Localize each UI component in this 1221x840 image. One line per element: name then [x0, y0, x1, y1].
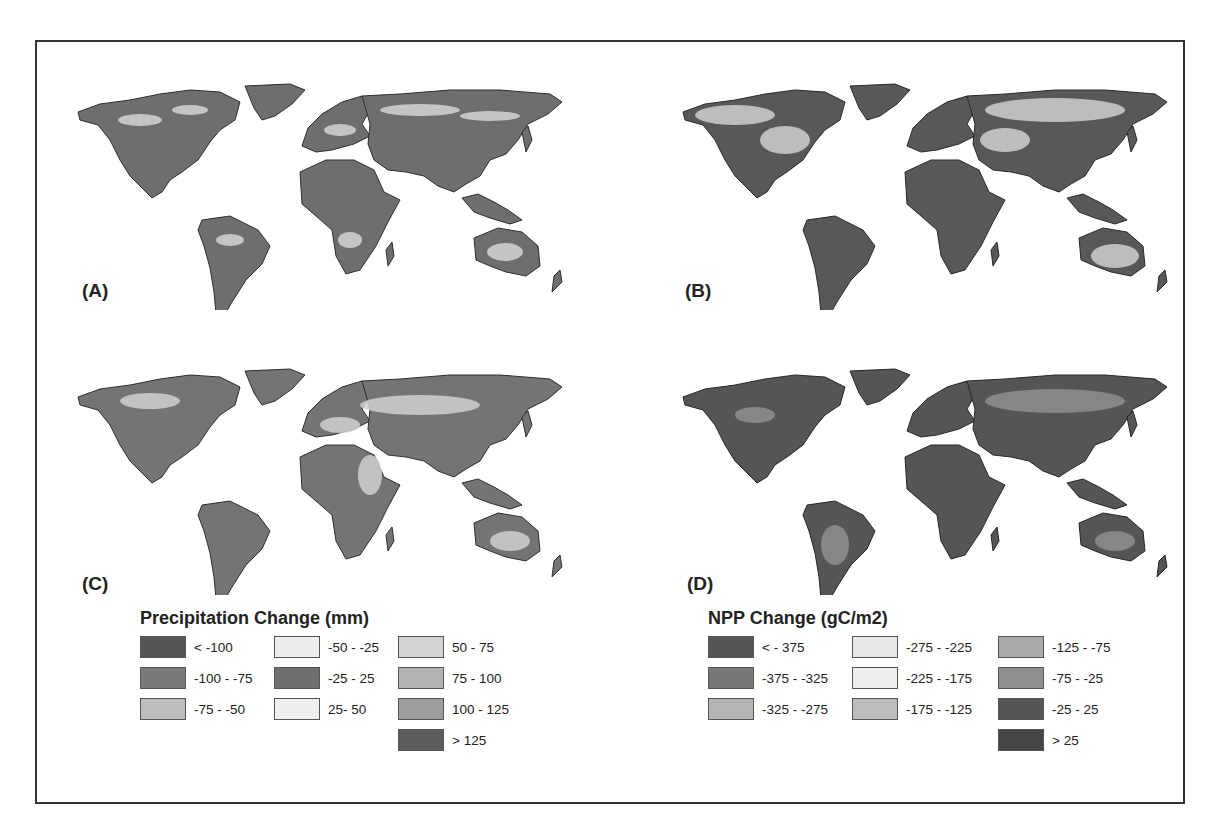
legend-label: -75 - -25 — [1052, 671, 1103, 686]
legend-label: -325 - -275 — [762, 702, 828, 717]
legend-label: 100 - 125 — [452, 702, 509, 717]
world-map-precipitation-c — [70, 365, 570, 595]
legend-precipitation: Precipitation Change (mm) < -100 -100 - … — [140, 608, 560, 765]
legend-item: -375 - -325 — [708, 666, 828, 690]
legend-label: -25 - 25 — [1052, 702, 1099, 717]
legend-swatch — [998, 729, 1044, 751]
legend-label: 25- 50 — [328, 702, 366, 717]
legend-swatch — [140, 636, 186, 658]
legend-item: -25 - 25 — [274, 666, 375, 690]
legend-swatch — [852, 636, 898, 658]
legend-swatch — [998, 698, 1044, 720]
legend-swatch — [708, 698, 754, 720]
legend-label: -175 - -125 — [906, 702, 972, 717]
legend-label: -75 - -50 — [194, 702, 245, 717]
legend-swatch — [140, 698, 186, 720]
legend-item: -25 - 25 — [998, 697, 1099, 721]
legend-item: > 125 — [398, 728, 486, 752]
map-panel-a: (A) — [70, 80, 570, 310]
legend-swatch — [274, 636, 320, 658]
legend-item: -275 - -225 — [852, 635, 972, 659]
legend-label: < -100 — [194, 640, 233, 655]
legend-label: 75 - 100 — [452, 671, 502, 686]
legend-item: 75 - 100 — [398, 666, 502, 690]
legend-item: -175 - -125 — [852, 697, 972, 721]
legend-label: -275 - -225 — [906, 640, 972, 655]
legend-swatch — [398, 698, 444, 720]
legend-item: 25- 50 — [274, 697, 366, 721]
legend-title-npp: NPP Change (gC/m2) — [708, 608, 1158, 629]
legend-swatch — [708, 667, 754, 689]
world-map-npp-b — [675, 80, 1175, 310]
legend-item: 50 - 75 — [398, 635, 494, 659]
world-map-npp-d — [675, 365, 1175, 595]
panel-label-a: (A) — [82, 280, 108, 302]
legend-item: 100 - 125 — [398, 697, 509, 721]
legend-label: -225 - -175 — [906, 671, 972, 686]
legend-swatch — [708, 636, 754, 658]
legend-item: -75 - -50 — [140, 697, 245, 721]
legend-item: -50 - -25 — [274, 635, 379, 659]
legend-item: -225 - -175 — [852, 666, 972, 690]
legend-swatch — [398, 729, 444, 751]
legend-label: 50 - 75 — [452, 640, 494, 655]
legend-item: -125 - -75 — [998, 635, 1111, 659]
legend-swatch — [852, 667, 898, 689]
legend-label: -100 - -75 — [194, 671, 253, 686]
legend-label: > 125 — [452, 733, 486, 748]
legend-swatch — [274, 667, 320, 689]
panel-label-b: (B) — [685, 280, 711, 302]
map-panel-c: (C) — [70, 365, 570, 595]
legend-item: -325 - -275 — [708, 697, 828, 721]
legend-title-precipitation: Precipitation Change (mm) — [140, 608, 560, 629]
legend-swatch — [274, 698, 320, 720]
legend-item: > 25 — [998, 728, 1079, 752]
panel-label-d: (D) — [687, 573, 713, 595]
legend-label: > 25 — [1052, 733, 1079, 748]
figure-caption — [0, 823, 1221, 840]
legend-item: < - 375 — [708, 635, 804, 659]
map-panel-d: (D) — [675, 365, 1175, 595]
legend-label: -25 - 25 — [328, 671, 375, 686]
legend-swatch — [998, 636, 1044, 658]
world-map-precipitation-a — [70, 80, 570, 310]
legend-item: -75 - -25 — [998, 666, 1103, 690]
legend-item: -100 - -75 — [140, 666, 253, 690]
legend-label: -50 - -25 — [328, 640, 379, 655]
legend-label: -375 - -325 — [762, 671, 828, 686]
legend-swatch — [998, 667, 1044, 689]
panel-label-c: (C) — [82, 573, 108, 595]
map-panel-b: (B) — [675, 80, 1175, 310]
legend-label: < - 375 — [762, 640, 804, 655]
legend-swatch — [398, 667, 444, 689]
legend-swatch — [398, 636, 444, 658]
legend-npp: NPP Change (gC/m2) < - 375 -375 - -325 -… — [708, 608, 1158, 765]
legend-swatch — [852, 698, 898, 720]
legend-label: -125 - -75 — [1052, 640, 1111, 655]
legend-item: < -100 — [140, 635, 233, 659]
legend-swatch — [140, 667, 186, 689]
